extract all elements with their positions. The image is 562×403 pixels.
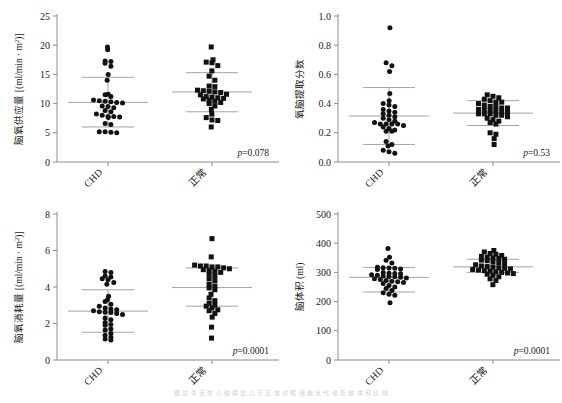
data-point bbox=[482, 97, 487, 102]
data-point bbox=[209, 44, 214, 49]
series-normal bbox=[172, 44, 252, 129]
y-tick-label: 5 bbox=[45, 127, 50, 138]
data-point bbox=[385, 143, 390, 148]
data-point bbox=[505, 110, 510, 115]
data-point bbox=[381, 124, 386, 129]
data-point bbox=[392, 151, 397, 156]
data-point bbox=[395, 279, 400, 284]
data-point bbox=[496, 260, 501, 265]
data-point bbox=[103, 61, 108, 66]
data-point bbox=[389, 122, 394, 127]
data-point bbox=[488, 120, 493, 125]
data-point bbox=[387, 108, 392, 113]
data-point bbox=[117, 115, 122, 120]
data-point bbox=[387, 113, 392, 118]
data-point bbox=[384, 129, 389, 134]
data-point bbox=[485, 258, 490, 263]
data-point bbox=[103, 129, 108, 134]
data-point bbox=[381, 281, 386, 286]
y-tick-label: 15 bbox=[40, 69, 50, 80]
y-tick-label: 0 bbox=[45, 355, 50, 366]
data-point bbox=[108, 322, 113, 327]
data-point bbox=[485, 272, 490, 277]
data-point bbox=[91, 308, 96, 313]
data-point bbox=[108, 99, 113, 104]
data-point bbox=[381, 101, 386, 106]
x-tick-label-normal: 正常 bbox=[467, 364, 490, 387]
data-point bbox=[207, 89, 212, 94]
data-point bbox=[103, 269, 108, 274]
data-point bbox=[505, 270, 510, 275]
data-point bbox=[207, 285, 212, 290]
data-point bbox=[387, 117, 392, 122]
data-point bbox=[493, 104, 498, 109]
data-point bbox=[401, 123, 406, 128]
data-point bbox=[97, 304, 102, 309]
data-point bbox=[473, 262, 478, 267]
data-point bbox=[502, 257, 507, 262]
panel-brain-volume: 0100200300400500CHD正常脑体积 (ml)p=0.0001 bbox=[281, 198, 562, 395]
data-point bbox=[496, 256, 501, 261]
data-point bbox=[381, 148, 386, 153]
data-point bbox=[108, 130, 113, 135]
data-point bbox=[106, 277, 111, 282]
data-point bbox=[207, 308, 212, 313]
data-point bbox=[209, 107, 214, 112]
data-point bbox=[114, 311, 119, 316]
data-point bbox=[204, 304, 209, 309]
data-point bbox=[114, 130, 119, 135]
data-point bbox=[493, 132, 498, 137]
data-point bbox=[103, 299, 108, 304]
y-tick-label: 8 bbox=[45, 209, 50, 220]
data-point bbox=[476, 268, 481, 273]
data-point bbox=[381, 116, 386, 121]
data-point bbox=[388, 300, 393, 305]
data-point bbox=[210, 315, 215, 320]
data-point bbox=[204, 115, 209, 120]
series-normal bbox=[453, 92, 533, 147]
y-axis-title: 脑氧消耗量 [(ml/min · m2)] bbox=[13, 231, 26, 342]
data-point bbox=[381, 111, 386, 116]
data-point bbox=[210, 60, 215, 65]
data-point bbox=[207, 74, 212, 79]
p-value-annotation: p=0.0001 bbox=[232, 346, 269, 356]
data-point bbox=[378, 277, 383, 282]
data-point bbox=[381, 265, 386, 270]
data-point bbox=[106, 104, 111, 109]
series-chd bbox=[349, 246, 429, 305]
data-point bbox=[212, 89, 217, 94]
data-point bbox=[392, 266, 397, 271]
data-point bbox=[105, 47, 110, 52]
y-tick-label: 0 bbox=[45, 157, 50, 168]
data-point bbox=[108, 302, 113, 307]
data-point bbox=[392, 274, 397, 279]
data-point bbox=[493, 108, 498, 113]
data-point bbox=[499, 100, 504, 105]
p-value-annotation: p=0.0001 bbox=[513, 346, 550, 356]
data-point bbox=[476, 111, 481, 116]
data-point bbox=[488, 276, 493, 281]
series-normal bbox=[172, 236, 252, 340]
data-point bbox=[485, 92, 490, 97]
y-tick-label: 6 bbox=[45, 245, 50, 256]
data-point bbox=[120, 101, 125, 106]
data-point bbox=[499, 105, 504, 110]
x-tick-label-chd: CHD bbox=[363, 167, 386, 190]
y-axis-title: 脑氧供应量 [(ml/min · m2)] bbox=[13, 33, 26, 144]
data-point bbox=[381, 290, 386, 295]
data-point bbox=[209, 336, 214, 341]
y-tick-label: 4 bbox=[45, 282, 50, 293]
y-axis-title: 脑体积 (ml) bbox=[294, 263, 306, 312]
data-point bbox=[381, 107, 386, 112]
data-point bbox=[192, 263, 197, 268]
series-chd bbox=[349, 25, 429, 156]
data-point bbox=[505, 114, 510, 119]
data-point bbox=[97, 309, 102, 314]
data-point bbox=[387, 98, 392, 103]
data-point bbox=[387, 274, 392, 279]
x-tick-label-chd: CHD bbox=[363, 365, 386, 388]
data-point bbox=[108, 270, 113, 275]
data-point bbox=[103, 327, 108, 332]
panel-oxygen-extraction-fraction: 0.00.20.40.60.81.0CHD正常氧脑提取分数p=0.53 bbox=[281, 0, 562, 197]
data-point bbox=[482, 103, 487, 108]
